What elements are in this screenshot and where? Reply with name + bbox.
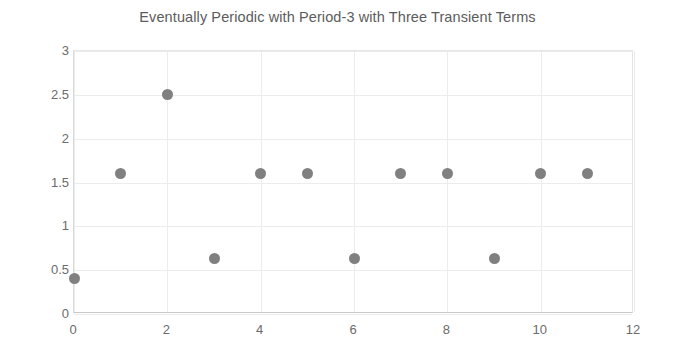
gridline-horizontal [74,51,632,52]
gridline-vertical [634,51,635,312]
data-point [115,168,126,179]
x-axis-tick-labels: 024681012 [0,322,675,346]
data-point [535,168,546,179]
y-axis-tick-label: 1.5 [9,174,69,189]
gridline-horizontal [74,95,632,96]
data-point [209,253,220,264]
data-point [162,89,173,100]
gridline-horizontal [74,139,632,140]
gridline-vertical [447,51,448,312]
gridline-vertical [354,51,355,312]
data-point [255,168,266,179]
y-axis-tick-label: 2 [9,130,69,145]
y-axis-tick-label: 1 [9,218,69,233]
gridline-horizontal [74,183,632,184]
x-axis-tick-label: 0 [43,322,103,337]
x-axis-tick-label: 2 [136,322,196,337]
data-point [442,168,453,179]
plot-area [73,50,633,313]
data-point [582,168,593,179]
gridline-horizontal [74,226,632,227]
chart-title: Eventually Periodic with Period-3 with T… [0,9,675,25]
x-axis-tick-label: 12 [603,322,663,337]
gridline-vertical [541,51,542,312]
x-axis-tick-label: 4 [230,322,290,337]
gridline-horizontal [74,314,632,315]
gridline-horizontal [74,270,632,271]
y-axis-tick-label: 0 [9,306,69,321]
data-point [349,253,360,264]
data-point [302,168,313,179]
x-axis-tick-label: 8 [416,322,476,337]
data-point [69,273,80,284]
y-axis-tick-labels: 00.511.522.53 [0,0,69,354]
gridline-vertical [261,51,262,312]
x-axis-tick-label: 6 [323,322,383,337]
scatter-chart: Eventually Periodic with Period-3 with T… [0,0,675,354]
y-axis-tick-label: 3 [9,43,69,58]
data-point [395,168,406,179]
data-point [489,253,500,264]
x-axis-tick-label: 10 [510,322,570,337]
y-axis-tick-label: 0.5 [9,262,69,277]
y-axis-tick-label: 2.5 [9,86,69,101]
